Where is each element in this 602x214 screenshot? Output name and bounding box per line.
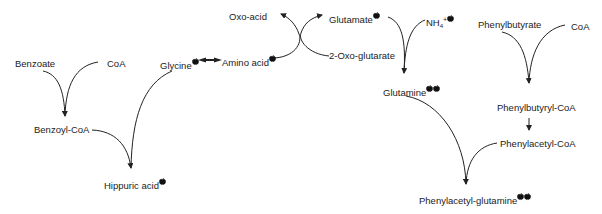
node-hippuric-acid: Hippuric acid xyxy=(104,178,166,191)
apple-icon xyxy=(447,15,454,22)
apple-icon xyxy=(517,193,524,200)
node-label: CoA xyxy=(107,58,125,69)
arrow-benzoate-to-benzoyl-coa xyxy=(43,71,65,116)
node-oxo-acid: Oxo-acid xyxy=(229,11,267,22)
node-label: Amino acid xyxy=(222,57,269,68)
arrow-glutamate-to-glutamine xyxy=(388,17,404,73)
node-phenylbutyrate: Phenylbutyrate xyxy=(478,19,541,30)
arrow-amino-to-oxo-acid xyxy=(275,14,300,58)
arrow-pa-coa-to-pa-glutamine xyxy=(466,143,497,184)
node-label: Phenylacetyl-glutamine xyxy=(419,195,517,206)
node-label: CoA xyxy=(571,21,589,32)
node-label: Glutamine xyxy=(383,87,426,98)
node-phenylacetyl-coa: Phenylacetyl-CoA xyxy=(500,138,576,149)
node-label: Phenylacetyl-CoA xyxy=(500,138,576,149)
arrow-glutamine-to-pa-glutamine xyxy=(406,96,466,184)
arrow-benzoyl-coa-to-hippuric xyxy=(92,130,131,168)
arrow-phenylbutyrate-to-pb-coa xyxy=(502,32,529,83)
node-label: Benzoate xyxy=(15,58,55,69)
node-nh4: NH4+ xyxy=(426,14,454,32)
node-2-oxo-glutarate: 2-Oxo-glutarate xyxy=(329,50,395,61)
apple-icon xyxy=(426,85,433,92)
node-label: Phenylbutyryl-CoA xyxy=(497,102,576,113)
arrow-coa-to-pb-coa xyxy=(529,25,565,83)
node-label: Glycine xyxy=(160,60,192,71)
node-phenylacetyl-glutamine: Phenylacetyl-glutamine xyxy=(419,193,531,206)
node-benzoate: Benzoate xyxy=(15,58,55,69)
node-label: Glutamate xyxy=(329,14,373,25)
apple-icon xyxy=(524,193,531,200)
node-coa-left: CoA xyxy=(107,58,125,69)
node-amino-acid: Amino acid xyxy=(222,55,276,68)
node-label: Hippuric acid xyxy=(104,180,159,191)
node-glutamine: Glutamine xyxy=(383,85,440,98)
arrow-oxoglutarate-to-glutamate xyxy=(300,15,329,56)
apple-icon xyxy=(192,58,199,65)
arrow-coa-to-benzoyl-coa xyxy=(65,62,98,116)
apple-icon xyxy=(373,12,380,19)
apple-icon xyxy=(269,55,276,62)
arrow-glycine-to-hippuric xyxy=(131,71,172,168)
arrow-nh4-to-glutamine xyxy=(404,20,425,73)
node-label: 2-Oxo-glutarate xyxy=(329,50,395,61)
node-benzoyl-coa: Benzoyl-CoA xyxy=(34,124,89,135)
node-glutamate: Glutamate xyxy=(329,12,380,25)
node-glycine: Glycine xyxy=(160,58,199,71)
node-label: NH xyxy=(426,17,440,28)
node-label: Oxo-acid xyxy=(229,11,267,22)
apple-icon xyxy=(159,178,166,185)
node-coa-right: CoA xyxy=(571,21,589,32)
node-label: Benzoyl-CoA xyxy=(34,124,89,135)
node-subscript: 4 xyxy=(440,23,443,29)
apple-icon xyxy=(433,85,440,92)
node-label: Phenylbutyrate xyxy=(478,19,541,30)
node-phenylbutyryl-coa: Phenylbutyryl-CoA xyxy=(497,102,576,113)
